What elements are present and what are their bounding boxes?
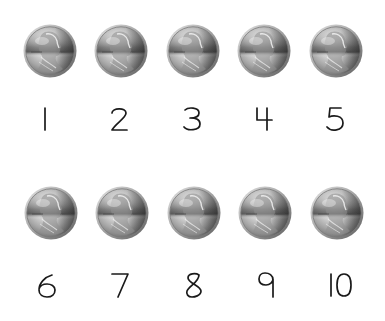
penny-icon [166, 24, 220, 78]
penny-icon [23, 24, 77, 78]
number-label: 6 [27, 271, 67, 299]
penny-icon [237, 24, 291, 78]
penny-icon [95, 186, 149, 240]
penny-icon [24, 186, 78, 240]
number-label: 7 [100, 271, 140, 299]
number-label: 1 [25, 105, 65, 133]
number-label: 4 [244, 105, 284, 133]
penny-icon [309, 24, 363, 78]
number-label: 2 [99, 105, 139, 133]
number-label: 10 [321, 271, 361, 299]
number-label: 3 [172, 105, 212, 133]
penny-icon [238, 186, 292, 240]
penny-icon [94, 24, 148, 78]
number-label: 5 [315, 105, 355, 133]
counting-worksheet: 1 2 3 4 5 [0, 0, 385, 321]
number-label: 9 [246, 271, 286, 299]
penny-icon [167, 186, 221, 240]
penny-icon [310, 186, 364, 240]
number-label: 8 [174, 271, 214, 299]
